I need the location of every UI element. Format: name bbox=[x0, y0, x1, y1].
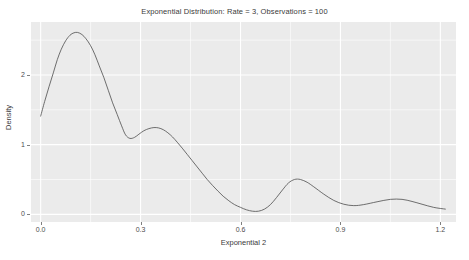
x-tick-label: 0.9 bbox=[320, 226, 360, 234]
y-tick-mark bbox=[27, 145, 30, 146]
density-plot: Exponential Distribution: Rate = 3, Obse… bbox=[0, 0, 469, 260]
x-tick-label: 0.3 bbox=[121, 226, 161, 234]
x-tick-label: 0.0 bbox=[21, 226, 61, 234]
x-tick-label: 1.2 bbox=[420, 226, 460, 234]
y-axis-title: Density bbox=[4, 88, 13, 148]
y-tick-label: 2 bbox=[3, 71, 25, 79]
plot-panel bbox=[31, 22, 456, 222]
x-tick-mark bbox=[440, 222, 441, 225]
density-curve-path bbox=[41, 32, 446, 211]
y-tick-label: 0 bbox=[3, 210, 25, 218]
x-tick-mark bbox=[241, 222, 242, 225]
x-tick-label: 0.6 bbox=[221, 226, 261, 234]
x-tick-mark bbox=[41, 222, 42, 225]
density-curve bbox=[31, 22, 456, 222]
x-tick-mark bbox=[141, 222, 142, 225]
y-tick-mark bbox=[27, 214, 30, 215]
chart-title: Exponential Distribution: Rate = 3, Obse… bbox=[0, 7, 469, 16]
y-tick-mark bbox=[27, 75, 30, 76]
x-tick-mark bbox=[340, 222, 341, 225]
x-axis-title: Exponential 2 bbox=[31, 238, 456, 247]
